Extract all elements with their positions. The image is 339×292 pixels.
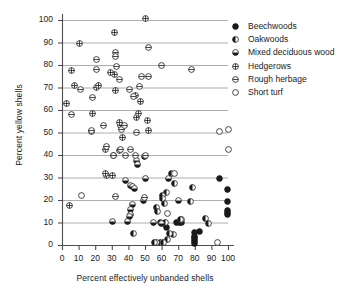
y-axis-title: Percent yellow shells bbox=[14, 65, 24, 185]
data-point bbox=[164, 210, 171, 217]
data-point bbox=[136, 83, 143, 90]
data-point bbox=[89, 110, 96, 117]
data-point bbox=[89, 94, 96, 101]
data-point bbox=[224, 198, 231, 205]
data-point bbox=[112, 87, 119, 94]
y-tick-label-80: 80 bbox=[31, 59, 53, 69]
y-tick-label-50: 50 bbox=[31, 127, 53, 137]
data-point bbox=[109, 172, 116, 179]
x-tick-label-100: 100 bbox=[218, 253, 238, 263]
data-point bbox=[142, 175, 149, 182]
data-point bbox=[111, 29, 118, 36]
y-tick-label-40: 40 bbox=[31, 149, 53, 159]
data-point bbox=[216, 175, 223, 182]
y-tick-label-10: 10 bbox=[31, 217, 53, 227]
data-point bbox=[158, 62, 165, 69]
data-point bbox=[68, 67, 75, 74]
data-point bbox=[100, 122, 107, 129]
data-point bbox=[144, 117, 151, 124]
legend-marker-icon bbox=[232, 23, 239, 30]
data-point bbox=[142, 15, 149, 22]
data-point bbox=[107, 69, 114, 76]
data-point bbox=[160, 239, 167, 246]
data-point bbox=[130, 93, 137, 100]
legend-marker-icon bbox=[232, 89, 239, 96]
legend-marker-icon bbox=[232, 49, 239, 56]
data-point bbox=[188, 66, 195, 73]
y-tick-label-70: 70 bbox=[31, 82, 53, 92]
legend-item-label: Oakwoods bbox=[248, 33, 288, 46]
data-point bbox=[63, 100, 70, 107]
data-point bbox=[93, 66, 100, 73]
data-point bbox=[116, 76, 123, 83]
y-tick-label-60: 60 bbox=[31, 104, 53, 114]
data-point bbox=[124, 218, 131, 225]
data-point bbox=[93, 56, 100, 63]
data-point bbox=[130, 230, 137, 237]
data-point bbox=[187, 198, 194, 205]
y-tick-label-100: 100 bbox=[31, 14, 53, 24]
data-point bbox=[134, 161, 141, 168]
y-tick-label-0: 0 bbox=[31, 239, 53, 249]
data-point bbox=[214, 239, 221, 246]
legend-item-label: Rough herbage bbox=[248, 73, 307, 86]
data-point bbox=[141, 194, 148, 201]
data-point bbox=[68, 111, 75, 118]
data-point bbox=[135, 110, 142, 117]
data-point bbox=[121, 122, 128, 129]
data-point bbox=[112, 53, 119, 60]
data-point bbox=[66, 202, 73, 209]
data-point bbox=[177, 216, 184, 223]
data-point bbox=[175, 197, 182, 204]
legend-item-label: Mixed deciduous wood bbox=[248, 46, 334, 59]
data-point bbox=[224, 211, 231, 218]
data-point bbox=[150, 219, 157, 226]
legend-marker-icon bbox=[232, 63, 239, 70]
legend-marker-icon bbox=[232, 36, 239, 43]
data-point bbox=[159, 195, 166, 202]
data-point bbox=[154, 208, 161, 215]
data-point bbox=[78, 192, 85, 199]
data-point bbox=[191, 234, 198, 241]
data-point bbox=[95, 82, 102, 89]
y-tick-label-30: 30 bbox=[31, 172, 53, 182]
data-point bbox=[145, 127, 152, 134]
data-point bbox=[224, 186, 231, 193]
data-point bbox=[109, 218, 116, 225]
data-point bbox=[158, 220, 165, 227]
data-point bbox=[205, 220, 212, 227]
scatter-plot-figure: Percent yellow shells Percent effectivel… bbox=[0, 0, 339, 292]
x-axis-title: Percent effectively unbanded shells bbox=[62, 273, 228, 283]
data-point bbox=[132, 152, 139, 159]
data-point bbox=[225, 126, 232, 133]
legend-item-label: Hedgerows bbox=[248, 60, 291, 73]
data-point bbox=[145, 73, 152, 80]
data-point bbox=[88, 127, 95, 134]
data-point bbox=[145, 44, 152, 51]
data-point bbox=[119, 134, 126, 141]
data-point bbox=[131, 185, 138, 192]
data-point bbox=[77, 86, 84, 93]
data-point bbox=[113, 63, 120, 70]
y-tick-label-20: 20 bbox=[31, 194, 53, 204]
data-point bbox=[102, 170, 109, 177]
data-point bbox=[133, 129, 140, 136]
y-tick-label-90: 90 bbox=[31, 37, 53, 47]
data-point bbox=[171, 170, 178, 177]
data-point bbox=[171, 180, 178, 187]
legend-item-label: Short turf bbox=[248, 86, 283, 99]
data-point bbox=[189, 184, 196, 191]
data-point bbox=[76, 40, 83, 47]
legend-item-label: Beechwoods bbox=[248, 20, 297, 33]
data-point bbox=[112, 193, 119, 200]
data-point bbox=[151, 239, 158, 246]
data-point bbox=[103, 143, 110, 150]
data-point bbox=[142, 152, 149, 159]
data-point bbox=[225, 146, 232, 153]
legend-marker-icon bbox=[232, 76, 239, 83]
data-point bbox=[216, 128, 223, 135]
